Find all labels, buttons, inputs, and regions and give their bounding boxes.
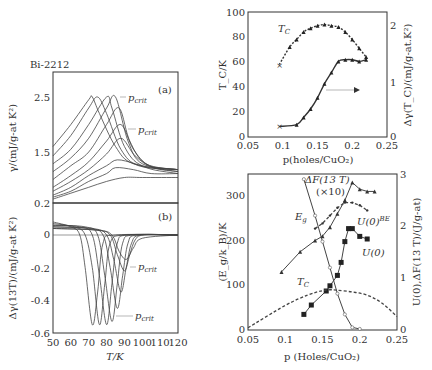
top-right-ylabel-right: Δγ(T_C)/(mJ/g-at.K²) [402, 24, 414, 127]
series-line [248, 290, 397, 328]
gamma-curve [53, 96, 178, 170]
svg-text:0.2: 0.2 [34, 198, 50, 209]
bottom-right-ylabel-right: U(0),ΔF(13 T)/(J/g-at) [411, 198, 422, 307]
svg-text:-0.4: -0.4 [31, 295, 50, 306]
gamma-curve [53, 96, 178, 169]
panel-a-label: (a) [158, 84, 172, 95]
deltaF-scale-label: (×10) [316, 186, 345, 197]
gamma-curve [53, 97, 178, 170]
svg-text:90: 90 [118, 337, 131, 348]
top-right-xlabel: p(holes/CuO₂) [283, 154, 354, 165]
svg-text:0.1: 0.1 [277, 334, 293, 345]
svg-text:70: 70 [82, 337, 95, 348]
svg-text:0.2: 0.2 [344, 140, 360, 151]
svg-text:1: 1 [400, 272, 406, 283]
svg-text:20: 20 [232, 106, 245, 117]
svg-text:50: 50 [47, 337, 60, 348]
svg-text:2: 2 [400, 220, 406, 231]
delta-gamma-curve [53, 227, 178, 292]
panel-b-label: (b) [158, 211, 172, 222]
panel-b: (b) pcrit pcrit 0 -0.2 -0.4 -0.6 5060708… [7, 203, 188, 362]
svg-text:40: 40 [232, 81, 245, 92]
pcrit-annotation-a2: pcrit [138, 124, 157, 137]
panel-b-ylabel: Δγ(13T)/(mJ/g-at K²) [7, 216, 18, 319]
svg-text:0: 0 [44, 229, 50, 240]
plot-top-right: ×× TC 0.050.10.150.20.25 0 20 40 60 80 1… [217, 7, 414, 165]
bottom-right-ylabel: (E_g/k_B)/K [217, 222, 229, 282]
svg-text:120: 120 [168, 337, 187, 348]
panel-b-xlabel: T/K [106, 351, 124, 362]
series-line [279, 60, 366, 127]
svg-text:0.25: 0.25 [386, 334, 408, 345]
svg-text:1.5: 1.5 [34, 147, 50, 158]
bottom-right-xlabel: p (Holes/CuO₂) [284, 351, 360, 362]
svg-text:0: 0 [400, 324, 406, 335]
svg-text:-0.2: -0.2 [31, 263, 50, 274]
pcrit-annotation-b1: pcrit [138, 261, 157, 274]
top-right-ylabel: T_C/K [217, 59, 229, 90]
svg-text:2: 2 [390, 20, 396, 31]
svg-text:0: 0 [239, 131, 245, 142]
tc-label-bottom: TC [297, 276, 310, 289]
svg-text:0: 0 [390, 131, 396, 142]
cross-marker: × [276, 61, 283, 70]
svg-text:0.05: 0.05 [237, 334, 259, 345]
svg-text:80: 80 [232, 31, 245, 42]
pcrit-annotation-a1: pcrit [128, 92, 147, 105]
figure: Bi-2212 (a) pcrit pcrit 2.5 1.5 0.2 γ/(m… [0, 0, 432, 370]
svg-text:100: 100 [133, 337, 152, 348]
svg-text:60: 60 [232, 56, 245, 67]
svg-text:200: 200 [226, 235, 245, 246]
delta-gamma-curve [53, 224, 178, 325]
svg-text:0: 0 [239, 324, 245, 335]
sample-label: Bi-2212 [30, 59, 69, 70]
series-line [279, 25, 366, 65]
delta-gamma-curve [53, 225, 178, 321]
svg-text:100: 100 [226, 7, 245, 18]
triangle-marker [350, 38, 354, 42]
svg-text:3: 3 [400, 169, 406, 180]
u0-label: U(0) [362, 247, 385, 258]
svg-text:0.1: 0.1 [275, 140, 291, 151]
svg-text:0.15: 0.15 [311, 334, 333, 345]
svg-text:80: 80 [100, 337, 113, 348]
svg-text:1: 1 [390, 77, 396, 88]
svg-text:60: 60 [64, 337, 77, 348]
cross-marker: × [276, 122, 283, 131]
panel-a: (a) pcrit pcrit 2.5 1.5 0.2 γ/(mJ/g-at K… [7, 72, 178, 209]
eg-label: Eg [294, 211, 307, 224]
svg-text:100: 100 [226, 279, 245, 290]
pcrit-annotation-b2: pcrit [135, 310, 154, 323]
svg-text:110: 110 [151, 337, 170, 348]
u0be-label: U(0)BE [357, 215, 390, 227]
svg-text:300: 300 [226, 190, 245, 201]
deltaF-label: ΔF(13 T) [304, 174, 350, 185]
svg-text:2.5: 2.5 [34, 92, 50, 103]
svg-text:0.15: 0.15 [306, 140, 328, 151]
tc-label-top: TC [278, 23, 291, 36]
delta-gamma-curve [53, 222, 178, 325]
delta-gamma-curve [53, 225, 178, 324]
panel-a-ylabel: γ/(mJ/g-at K²) [7, 104, 18, 173]
svg-text:0.2: 0.2 [352, 334, 368, 345]
plot-bottom-right: ΔF(13 T) (×10) Eg U(0)BE U(0) TC 0.050.1… [217, 169, 422, 362]
